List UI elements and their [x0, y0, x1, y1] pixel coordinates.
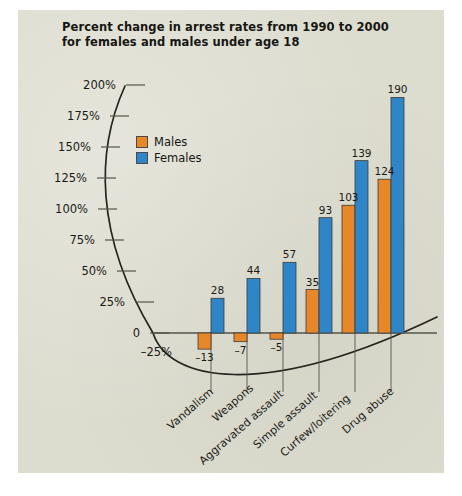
legend-item-males[interactable]: Males	[136, 135, 202, 149]
bar-males-5[interactable]	[378, 179, 391, 333]
y-axis-label-175: 175%	[10, 109, 100, 123]
value-label-females-4: 139	[342, 147, 382, 159]
bar-males-1[interactable]	[234, 333, 247, 342]
value-label-females-5: 190	[378, 83, 418, 95]
value-label-females-3: 93	[306, 204, 346, 216]
bar-females-1[interactable]	[247, 278, 260, 333]
bar-females-5[interactable]	[391, 97, 404, 333]
legend-swatch-males	[136, 136, 148, 148]
legend-swatch-females	[136, 152, 148, 164]
bar-males-4[interactable]	[342, 205, 355, 333]
chart-page: Percent change in arrest rates from 1990…	[0, 0, 462, 496]
bar-females-0[interactable]	[211, 298, 224, 333]
plot-area	[0, 0, 462, 496]
value-label-males-3: 35	[293, 276, 333, 288]
y-axis-label-0: 0	[50, 326, 140, 340]
legend-label-females: Females	[154, 151, 202, 165]
chart-legend: MalesFemales	[136, 135, 202, 167]
y-axis-label-125: 125%	[0, 171, 87, 185]
value-label-males-1: –7	[221, 344, 261, 356]
y-axis-label-75: 75%	[5, 233, 95, 247]
bar-males-0[interactable]	[198, 333, 211, 349]
value-label-females-2: 57	[270, 248, 310, 260]
value-label-females-1: 44	[234, 264, 274, 276]
bar-males-3[interactable]	[306, 290, 319, 333]
y-axis-label-100: 100%	[0, 202, 88, 216]
y-axis-label-200: 200%	[26, 78, 116, 92]
value-label-females-0: 28	[198, 284, 238, 296]
y-axis-label-25: 25%	[35, 295, 125, 309]
bar-females-2[interactable]	[283, 262, 296, 333]
legend-item-females[interactable]: Females	[136, 151, 202, 165]
value-label-males-0: –13	[185, 351, 225, 363]
value-label-males-5: 124	[365, 165, 405, 177]
value-label-males-4: 103	[329, 191, 369, 203]
bars-layer	[198, 97, 404, 349]
y-axis-label-50: 50%	[17, 264, 107, 278]
legend-label-males: Males	[154, 135, 187, 149]
bar-females-4[interactable]	[355, 161, 368, 333]
y-axis-label--25: –25%	[82, 345, 172, 359]
bar-males-2[interactable]	[270, 333, 283, 339]
y-axis-label-150: 150%	[1, 140, 91, 154]
value-label-males-2: –5	[257, 341, 297, 353]
